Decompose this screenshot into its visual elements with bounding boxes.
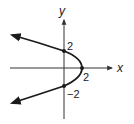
label-point-top: 2 xyxy=(67,40,73,52)
label-point-vertex: 2 xyxy=(83,71,89,83)
parabola-graph: y x 2 2 −2 xyxy=(0,0,134,124)
label-point-bottom: −2 xyxy=(67,88,80,100)
y-axis-label: y xyxy=(58,4,66,18)
point-vertex-2-0 xyxy=(80,66,84,70)
point-0-2 xyxy=(62,49,66,53)
point-0-neg2 xyxy=(62,84,66,88)
x-axis-label: x xyxy=(116,61,124,75)
